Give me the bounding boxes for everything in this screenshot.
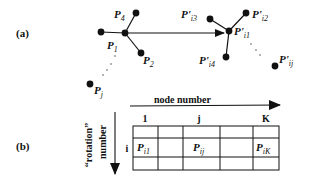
node-p-i1	[226, 28, 233, 35]
cell-p-ik: PiK	[256, 141, 271, 156]
diagram-canvas: (a) P4 P1 P2 Pj P'i3 P'i2 P	[0, 0, 311, 182]
node-number-axis-arrow	[130, 105, 280, 106]
label-p2: P2	[143, 54, 154, 69]
right-ellipsis-dots	[250, 43, 260, 55]
left-ellipsis-dots	[102, 55, 115, 75]
label-p-ij: P'ij	[279, 53, 294, 68]
node-p4	[98, 29, 105, 36]
panel-a-label: (a)	[16, 27, 29, 40]
column-header-k: K	[262, 113, 270, 124]
column-header-1: 1	[143, 113, 148, 124]
label-p-i4: P'i4	[199, 54, 215, 69]
label-pj: Pj	[94, 84, 104, 99]
node-pj	[87, 81, 94, 88]
rotation-axis-label-line1: “rotation”	[83, 123, 94, 167]
node-p1	[122, 30, 129, 37]
node-p-i4	[223, 54, 230, 61]
cell-p-i1: Pi1	[137, 141, 150, 156]
label-p3: P4	[114, 8, 125, 23]
column-header-j: j	[196, 113, 200, 124]
label-p-i3: P'i3	[181, 8, 197, 23]
node-p3	[133, 10, 140, 17]
label-p1: P1	[107, 39, 118, 54]
label-p-i2: P'i2	[252, 8, 268, 23]
node-p-ij	[272, 63, 279, 70]
cell-p-ij: Pij	[193, 141, 205, 156]
panel-b-label: (b)	[16, 140, 30, 153]
node-p-i3	[207, 16, 214, 23]
label-p-i1: P'i1	[234, 25, 250, 40]
rotation-axis-label-line2: number	[97, 125, 108, 159]
node-p-i2	[243, 10, 250, 17]
row-header-i: i	[126, 143, 129, 154]
node-number-axis-label: node number	[154, 94, 212, 105]
